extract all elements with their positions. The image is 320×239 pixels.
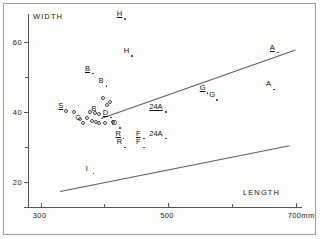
x-tick-label: 700mm [288,211,315,220]
data-point-label: B [85,65,90,73]
data-point-label: D [112,119,117,127]
data-point-dot [131,55,133,57]
cluster-circle-marker [85,116,89,120]
data-point-label: D [103,109,108,117]
scatter-plot-figure: WIDTH LENGTH 204060 300500700mm HHBBAAGG… [0,0,320,239]
data-point-label: B [91,105,96,113]
x-tick-label: 300 [33,211,47,220]
x-tick-label: 500 [160,211,174,220]
data-point-label: G [209,91,215,99]
y-tick [25,77,29,78]
data-point-label: A [266,80,271,88]
x-tick [168,203,169,208]
data-point-dot [143,147,145,149]
figure-border [3,3,316,235]
data-point-label: H [124,47,129,55]
data-point-label: 24A [149,103,162,111]
data-point-dot [216,99,218,101]
data-point-label: B [98,77,103,85]
data-point-dot [106,85,108,87]
data-point-dot [124,147,126,149]
data-point-dot [273,89,275,91]
x-tick [232,204,233,208]
y-tick-label: 40 [0,108,22,117]
y-tick [24,112,29,113]
y-tick [25,147,29,148]
y-tick-label: 60 [0,38,22,47]
y-axis-line [28,14,29,208]
data-point-label: A [270,44,275,52]
data-point-label: H [117,10,122,18]
data-point-label: S [58,102,63,110]
x-tick [104,204,105,208]
y-tick [24,42,29,43]
x-axis-title: LENGTH [243,188,280,197]
x-axis-line [24,207,302,208]
data-point-label: F [136,138,141,146]
data-point-label: R [117,138,122,146]
y-tick [24,182,29,183]
x-tick [296,203,297,208]
cluster-circle-marker [103,121,107,125]
y-tick-label: 20 [0,178,22,187]
data-point-label: G [200,84,206,92]
x-tick [41,203,42,208]
y-axis-title: WIDTH [33,12,63,21]
data-point-label: C [75,114,80,122]
data-point-label: 24A [149,130,162,138]
data-point-dot [124,18,126,20]
data-point-circle [64,109,68,113]
data-point-label: I [86,165,88,173]
